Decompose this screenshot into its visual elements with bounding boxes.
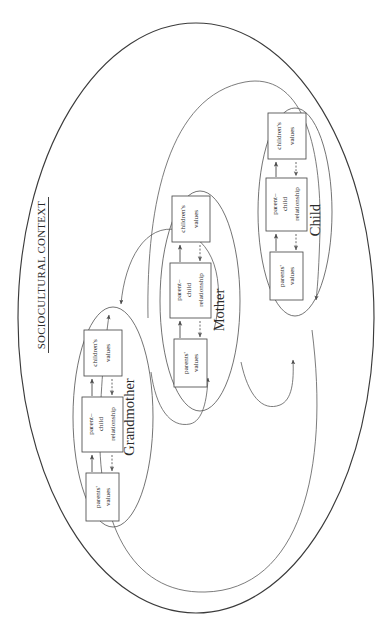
mo-childrens-values-line1: children's bbox=[179, 205, 187, 233]
gm-parents-values-line2: values bbox=[104, 488, 112, 506]
generation-child[interactable]: Child parents' values parent– child rela… bbox=[258, 108, 332, 316]
context-title-group: SOCIOCULTURAL CONTEXT bbox=[35, 197, 49, 353]
node-gm-childrens-values[interactable]: children's values bbox=[84, 330, 122, 376]
ch-parents-values-line2: values bbox=[288, 267, 296, 285]
mother-label: Mother bbox=[211, 288, 227, 331]
node-gm-pc-relationship[interactable]: parent– child relationship bbox=[82, 397, 123, 452]
ch-pc-relationship-line2: child bbox=[281, 196, 289, 211]
mo-parents-values-line1: parents' bbox=[182, 352, 190, 374]
ch-childrens-values-line1: children's bbox=[275, 122, 283, 150]
node-mo-parents-values[interactable]: parents' values bbox=[174, 339, 207, 387]
ch-parents-values-box bbox=[270, 252, 303, 300]
gm-pc-relationship-line1: parent– bbox=[87, 413, 95, 435]
gm-childrens-values-line1: children's bbox=[91, 339, 99, 367]
gm-pc-relationship-line2: child bbox=[97, 416, 105, 431]
mo-pc-relationship-line2: child bbox=[185, 282, 193, 297]
diagram-svg: SOCIOCULTURAL CONTEXT Grandmother parent… bbox=[0, 0, 385, 637]
ch-pc-relationship-line3: relationship bbox=[293, 187, 301, 221]
mo-parents-values-line2: values bbox=[192, 354, 200, 372]
link-mother-to-child-short bbox=[241, 360, 293, 407]
mo-parents-values-box bbox=[174, 339, 207, 387]
diagram-root: SOCIOCULTURAL CONTEXT Grandmother parent… bbox=[0, 0, 385, 637]
grandmother-label: Grandmother bbox=[121, 378, 137, 455]
node-ch-parents-values[interactable]: parents' values bbox=[270, 252, 303, 300]
generation-grandmother[interactable]: Grandmother parents' values parent– chil… bbox=[73, 307, 153, 527]
mo-pc-relationship-line1: parent– bbox=[175, 279, 183, 301]
sociocultural-context-label: SOCIOCULTURAL CONTEXT bbox=[35, 201, 47, 350]
node-ch-pc-relationship[interactable]: parent– child relationship bbox=[266, 178, 307, 231]
gm-childrens-values-line2: values bbox=[104, 344, 112, 362]
mo-pc-relationship-line3: relationship bbox=[197, 273, 205, 307]
gm-parents-values-line1: parents' bbox=[94, 486, 102, 508]
ch-childrens-values-line2: values bbox=[288, 127, 296, 145]
gm-pc-relationship-line3: relationship bbox=[109, 407, 117, 441]
node-mo-childrens-values[interactable]: children's values bbox=[172, 196, 210, 242]
mo-childrens-values-line2: values bbox=[192, 210, 200, 228]
node-mo-pc-relationship[interactable]: parent– child relationship bbox=[170, 263, 211, 318]
generation-mother[interactable]: Mother parents' values parent– child rel… bbox=[160, 191, 240, 411]
gm-parents-values-box bbox=[86, 473, 119, 521]
ch-parents-values-line1: parents' bbox=[278, 265, 286, 287]
node-ch-childrens-values[interactable]: children's values bbox=[268, 113, 306, 159]
child-label: Child bbox=[307, 203, 323, 236]
node-gm-parents-values[interactable]: parents' values bbox=[86, 473, 119, 521]
ch-pc-relationship-line1: parent– bbox=[271, 193, 279, 215]
